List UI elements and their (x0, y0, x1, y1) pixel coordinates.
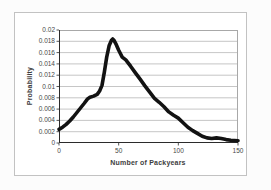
x-tick-label: 0 (57, 147, 61, 155)
y-tick-label: 0.02 (17, 26, 55, 34)
y-tick-label: 0.002 (17, 128, 55, 136)
y-tick-label: 0.012 (17, 71, 55, 79)
x-tick-label: 50 (115, 147, 122, 155)
y-tick-label: 0.01 (17, 83, 55, 91)
x-axis-title: Number of Packyears (110, 159, 185, 166)
y-tick-label: 0.008 (17, 94, 55, 102)
y-tick-label: 0.004 (17, 116, 55, 124)
chart-frame: Probability 00.0020.0040.0060.0080.010.0… (14, 12, 247, 176)
y-tick-label: 0.018 (17, 37, 55, 45)
y-tick-label: 0.016 (17, 49, 55, 57)
x-tick-label: 150 (233, 147, 244, 155)
plot-svg (59, 30, 238, 143)
y-tick-label: 0 (17, 139, 55, 147)
page: Probability 00.0020.0040.0060.0080.010.0… (0, 0, 271, 190)
y-tick-label: 0.006 (17, 105, 55, 113)
y-tick-label: 0.014 (17, 60, 55, 68)
plot-area (59, 30, 238, 143)
x-tick-label: 100 (173, 147, 184, 155)
probability-density-curve (59, 39, 238, 141)
